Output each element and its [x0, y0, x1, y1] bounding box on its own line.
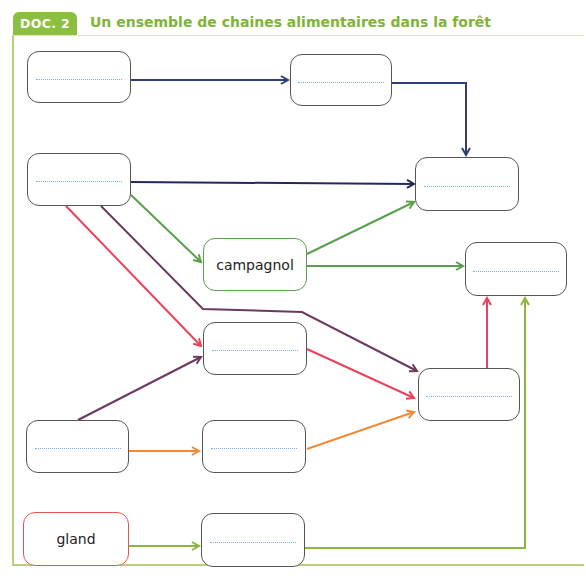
answer-blank[interactable]	[298, 82, 384, 83]
node-n6-blank[interactable]	[465, 242, 567, 296]
node-n7-blank[interactable]	[203, 322, 307, 375]
node-n4-blank[interactable]	[415, 157, 519, 211]
arrow-n3-n7	[66, 206, 201, 346]
arrow-n9-n7	[78, 357, 201, 420]
arrow-n3-n5	[131, 195, 201, 262]
answer-blank[interactable]	[424, 186, 510, 187]
answer-blank[interactable]	[473, 271, 559, 272]
answer-blank[interactable]	[35, 448, 121, 449]
answer-blank[interactable]	[36, 79, 122, 80]
arrow-n5-n4	[307, 202, 414, 254]
answer-blank[interactable]	[36, 181, 122, 182]
node-n2-blank[interactable]	[290, 54, 392, 106]
arrow-n2-n4	[392, 83, 466, 155]
node-label: gland	[56, 531, 95, 547]
node-n11-gland: gland	[23, 512, 129, 566]
arrow-n12-n6	[305, 298, 525, 548]
answer-blank[interactable]	[426, 396, 512, 397]
node-n5-campagnol: campagnol	[203, 238, 307, 291]
answer-blank[interactable]	[211, 448, 297, 449]
answer-blank[interactable]	[212, 350, 298, 351]
answer-blank[interactable]	[210, 542, 296, 543]
node-n1-blank[interactable]	[27, 51, 131, 103]
node-label: campagnol	[216, 257, 294, 273]
node-n9-blank[interactable]	[26, 420, 129, 473]
node-n10-blank[interactable]	[202, 420, 306, 473]
node-n8-blank[interactable]	[418, 368, 520, 421]
node-n12-blank[interactable]	[201, 513, 305, 567]
node-n3-blank[interactable]	[27, 153, 131, 206]
arrow-n10-n8	[307, 412, 414, 449]
arrow-n3-n4	[131, 182, 414, 184]
arrow-n7-n8	[307, 349, 414, 398]
